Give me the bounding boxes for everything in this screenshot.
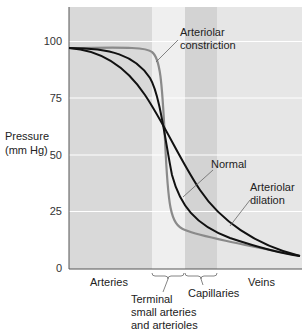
ytick-100: 100 (44, 35, 62, 47)
region-label-terminal-1: Terminal (131, 293, 173, 305)
region-label-veins: Veins (248, 276, 275, 288)
leader-terminal (163, 279, 168, 292)
ytick-75: 75 (50, 92, 62, 104)
region-label-arteries: Arteries (90, 276, 128, 288)
band-arteries (69, 7, 152, 269)
brace-capillaries (185, 273, 217, 279)
brace-terminal-arterioles (152, 273, 184, 279)
leader-capillaries (201, 279, 203, 285)
pressure-chart: 100 75 50 25 0 Pressure (mm Hg) Arteriol… (0, 0, 305, 330)
region-label-terminal-2: small arteries (131, 306, 197, 318)
label-arteriolar-constriction-1: Arteriolar (180, 26, 225, 38)
label-arteriolar-dilation-1: Arteriolar (250, 181, 295, 193)
region-label-terminal-3: and arterioles (131, 319, 198, 330)
y-axis-label-line1: Pressure (5, 130, 49, 142)
y-axis-label-line2: (mm Hg) (5, 144, 48, 156)
region-label-capillaries: Capillaries (188, 287, 240, 299)
label-normal: Normal (211, 158, 246, 170)
ytick-50: 50 (50, 149, 62, 161)
label-arteriolar-dilation-2: dilation (250, 194, 285, 206)
ytick-25: 25 (50, 205, 62, 217)
ytick-0: 0 (56, 262, 62, 274)
label-arteriolar-constriction-2: constriction (180, 39, 236, 51)
